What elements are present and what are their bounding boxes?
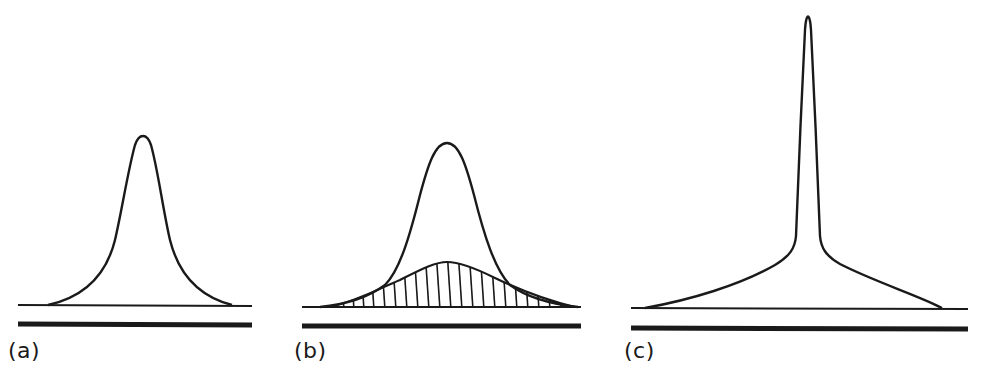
panel-a xyxy=(18,136,252,325)
panel-a-curve xyxy=(48,136,232,305)
figure-canvas xyxy=(0,0,985,373)
panel-c-label: (c) xyxy=(624,340,655,362)
panel-c-curve xyxy=(645,17,942,309)
panel-b-hatching xyxy=(330,250,561,310)
panel-b xyxy=(302,143,581,326)
panel-b-label: (b) xyxy=(294,340,327,362)
panel-a-label: (a) xyxy=(8,340,40,362)
panel-c-bar xyxy=(631,328,968,329)
panel-a-baseline xyxy=(18,305,252,306)
panel-a-bar xyxy=(18,324,252,325)
panel-c xyxy=(631,17,968,330)
panel-c-baseline xyxy=(631,308,968,309)
